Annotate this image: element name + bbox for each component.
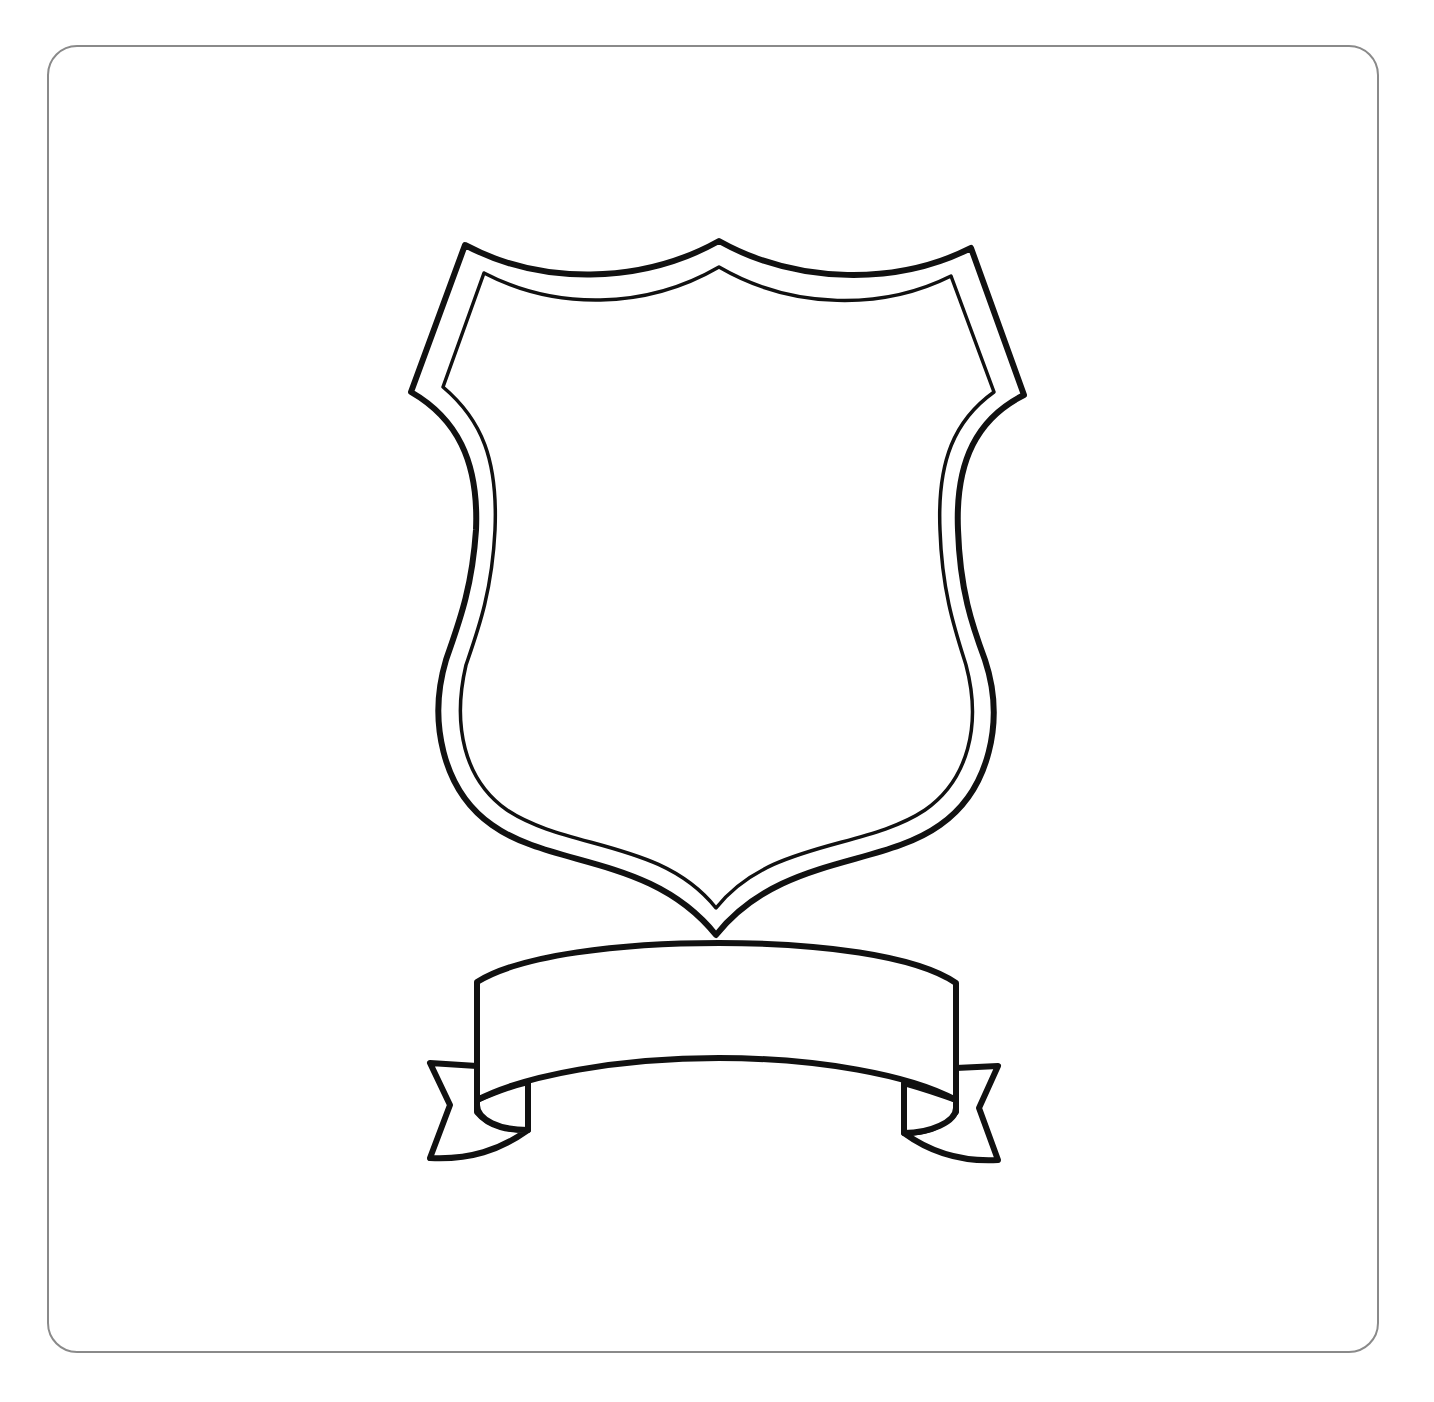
shield-banner-artwork [0, 0, 1434, 1402]
shield-inner-outline [443, 267, 994, 908]
banner-main[interactable] [477, 943, 956, 1100]
